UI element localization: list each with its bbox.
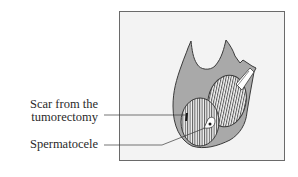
scar-label: Scar from the tumorectomy xyxy=(30,98,98,124)
scar-label-line2: tumorectomy xyxy=(30,111,98,124)
anatomy-diagram: Scar from the tumorectomy Spermatocele xyxy=(0,0,298,177)
spermatocele-label: Spermatocele xyxy=(30,138,98,151)
scar-mark xyxy=(186,113,187,121)
